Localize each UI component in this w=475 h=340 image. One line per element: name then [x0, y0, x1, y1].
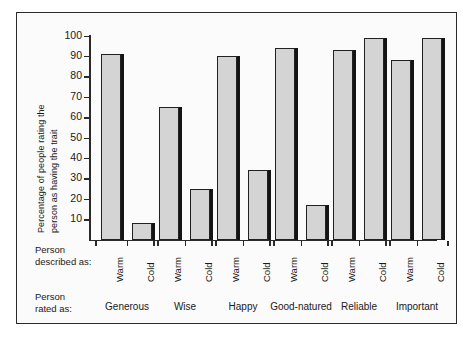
x-category-label-good-natured: Good-natured	[270, 301, 332, 312]
y-tick-mark	[84, 56, 89, 58]
bar-warm-happy	[217, 56, 237, 240]
x-category-label-wise: Wise	[174, 301, 196, 312]
x-sublabel-warm: Warm	[404, 257, 415, 282]
y-tick-label: 70	[70, 90, 82, 102]
x-sublabel-cold: Cold	[145, 262, 156, 282]
y-tick-label: 50	[70, 131, 82, 143]
x-sublabel-warm: Warm	[172, 257, 183, 282]
y-tick-label: 80	[70, 69, 82, 81]
y-tick-mark	[84, 178, 89, 180]
bar-warm-good-natured	[275, 48, 295, 240]
x-sublabel-warm: Warm	[114, 257, 125, 282]
bar-cold-good-natured	[306, 205, 326, 240]
bar-warm-reliable	[333, 50, 353, 240]
warm-cold-label-row: WarmColdWarmColdWarmColdWarmColdWarmCold…	[89, 244, 437, 286]
bar-group	[333, 34, 391, 240]
y-tick-mark	[84, 199, 89, 201]
x-sublabel-cold: Cold	[261, 262, 272, 282]
y-tick-mark	[84, 36, 89, 38]
bar-group	[101, 34, 159, 240]
y-tick-mark	[84, 219, 89, 221]
y-tick-mark	[84, 76, 89, 78]
caption-rated-line-1: Person	[35, 291, 72, 303]
trait-label-row: GenerousWiseHappyGood-naturedReliableImp…	[89, 301, 437, 317]
y-axis-title: Percentage of people rating the person a…	[23, 21, 67, 236]
y-tick-label: 40	[70, 151, 82, 163]
bar-group	[391, 34, 449, 240]
bar-group	[275, 34, 333, 240]
plot-area: 102030405060708090100	[89, 35, 437, 241]
caption-described-line-2: described as:	[35, 256, 92, 268]
bar-warm-important	[391, 60, 411, 240]
x-sublabel-cold: Cold	[319, 262, 330, 282]
y-tick-label: 60	[70, 110, 82, 122]
bar-warm-wise	[159, 107, 179, 240]
x-sublabel-cold: Cold	[203, 262, 214, 282]
x-sublabel-warm: Warm	[230, 257, 241, 282]
y-axis-title-line-1: Percentage of people rating the	[36, 104, 47, 233]
bar-cold-wise	[190, 189, 210, 240]
caption-rated-line-2: rated as:	[35, 303, 72, 315]
y-tick-mark	[84, 117, 89, 119]
chart-figure: Percentage of people rating the person a…	[16, 12, 457, 324]
bar-cold-happy	[248, 170, 268, 239]
x-sublabel-warm: Warm	[346, 257, 357, 282]
x-tick-mark	[447, 241, 449, 246]
bar-cold-generous	[132, 223, 152, 239]
y-tick-label: 100	[64, 29, 82, 41]
y-axis-title-line-2: person as having the trait	[49, 129, 60, 233]
x-sublabel-cold: Cold	[435, 262, 446, 282]
bar-warm-generous	[101, 54, 121, 240]
caption-described-as: Person described as:	[35, 244, 92, 267]
bar-cold-reliable	[364, 38, 384, 240]
x-sublabel-warm: Warm	[288, 257, 299, 282]
y-tick-label: 30	[70, 171, 82, 183]
y-tick-mark	[84, 138, 89, 140]
bar-cold-important	[422, 38, 442, 240]
caption-described-line-1: Person	[35, 244, 92, 256]
x-category-label-important: Important	[396, 301, 438, 312]
y-tick-label: 90	[70, 49, 82, 61]
y-axis-line	[89, 35, 91, 241]
x-category-label-reliable: Reliable	[341, 301, 377, 312]
y-tick-label: 20	[70, 192, 82, 204]
y-tick-label: 10	[70, 212, 82, 224]
x-sublabel-cold: Cold	[377, 262, 388, 282]
x-category-label-generous: Generous	[105, 301, 149, 312]
caption-rated-as: Person rated as:	[35, 291, 72, 314]
bar-group	[159, 34, 217, 240]
y-tick-mark	[84, 97, 89, 99]
bar-group	[217, 34, 275, 240]
x-category-label-happy: Happy	[229, 301, 258, 312]
y-tick-mark	[84, 158, 89, 160]
